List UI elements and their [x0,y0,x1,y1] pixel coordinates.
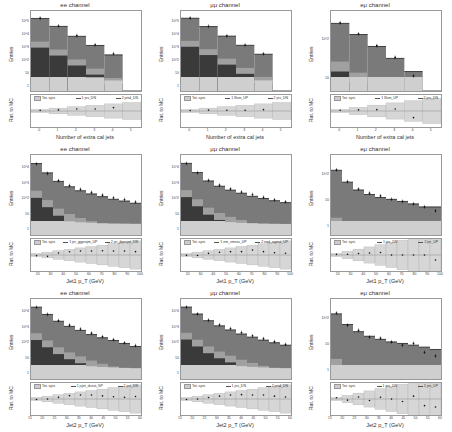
x-tick-label: 50 [114,416,118,420]
legend-label: 2 jetid_DN [122,96,138,100]
x-axis-label: Jet1 p_T (GeV) [180,278,290,284]
x-tick-label: 100 [137,272,143,276]
y-axis-ticks: 11010^2 [319,154,329,234]
ratio-y-axis-label: Rat. to MC [308,386,314,410]
x-tick-label: 50 [414,416,418,420]
ratio-panel: Tot. syst.1 jsjet_dusst_SP2 jes_DN [30,382,142,416]
x-tick-label: 55 [276,416,280,420]
y-tick-label: 10^2 [172,340,179,344]
syst-band-swatch-icon [34,384,41,389]
y-tick-label: 10^3 [22,45,29,49]
x-tick-label: 90 [275,272,279,276]
x-tick-label: 60 [138,416,142,420]
legend-entry: 1 lllum_UP [225,96,248,101]
line-swatch-icon [63,242,68,243]
x-tick-label: 40 [361,272,365,276]
ratio-panel: Tot. syst.1 jer_ggprojm_UP2 jer_jbprojm_… [30,238,142,272]
legend-entry: Tot. syst. [184,96,206,101]
legend-entry: 1 jes_DN [76,96,96,101]
panel-title: eμ channel [300,290,450,296]
x-tick-label: 40 [211,272,215,276]
legend-label: 1 jes_DN [383,384,397,388]
x-tick-label: 1 [357,128,359,132]
y-axis-ticks: 1010^2 [319,10,329,90]
legend-entry: 1 em_smear_UP [214,240,246,245]
x-axis-label: Jet2 p_T (GeV) [330,422,440,428]
chart-panel-row1-col3: eμ channel1010^2EntriesTot. syst.1 lllum… [300,0,450,144]
ratio-legend: Tot. syst.1 lllum_UP2 jes_DN [334,96,438,101]
x-tick-label: 70 [400,272,404,276]
y-tick-label: 1 [177,84,179,88]
x-tick-label: 80 [112,272,116,276]
x-axis-label: Jet1 p_T (GeV) [330,278,440,284]
y-tick-label: 10^3 [22,181,29,185]
legend-entry: Tot. syst. [34,96,56,101]
ratio-legend: Tot. syst.1 jer_ggprojm_UP2 jer_jbprojm_… [34,240,138,245]
legend-label: 2 jer_UP [424,240,438,244]
y-tick-label: 10^3 [172,325,179,329]
line-swatch-icon [105,242,110,243]
legend-label: Tot. syst. [192,240,206,244]
syst-band-swatch-icon [184,384,191,389]
legend-entry: Tot. syst. [34,384,56,389]
y-axis-label: Entries [158,190,164,206]
chart-panel-row2-col1: ee channel11010^210^310^4EntriesTot. sys… [0,144,150,288]
x-tick-label: 70 [100,272,104,276]
x-tick-label: 15 [28,416,32,420]
x-tick-label: 90 [125,272,129,276]
x-tick-label: 0 [338,128,340,132]
x-tick-label: 55 [426,416,430,420]
y-axis-label: Entries [8,190,14,206]
y-tick-label: 10^4 [22,165,29,169]
ratio-y-axis-label: Rat. to MC [158,98,164,122]
y-tick-label: 10 [25,71,29,75]
chart-panel-row3-col2: μμ channel11010^210^310^4EntriesTot. sys… [150,288,300,432]
y-tick-label: 10^4 [172,32,179,36]
syst-band-swatch-icon [184,240,191,245]
ratio-y-axis-label: Rat. to MC [308,242,314,266]
line-swatch-icon [76,98,81,99]
legend-entry: 1 jes_DN [377,384,397,389]
x-tick-label: 80 [412,272,416,276]
x-tick-label: 70 [250,272,254,276]
legend-entry: 1 jes_DN [226,384,246,389]
x-axis-label: Number of extra cal jets [180,134,290,140]
x-tick-label: 50 [74,272,78,276]
chart-panel-row1-col1: ee channel11010^210^310^410^5EntriesTot.… [0,0,150,144]
legend-label: Tot. syst. [42,240,56,244]
legend-label: 1 jes_DN [232,384,246,388]
line-swatch-icon [418,242,423,243]
ratio-panel: Tot. syst.1 jes_DN2 jes_UP [330,382,442,416]
legend-entry: Tot. syst. [334,384,356,389]
chart-panel-row3-col1: ee channel11010^210^310^4EntriesTot. sys… [0,288,150,432]
y-tick-label: 10^2 [322,172,329,176]
line-swatch-icon [418,386,423,387]
y-tick-label: 10^3 [172,45,179,49]
legend-label: 2 jer_jbprojm_DN [111,240,138,244]
panel-title: ee channel [0,146,150,152]
ratio-panel: Tot. syst.1 lllum_UP2 jes_DN [330,94,442,128]
legend-entry: Tot. syst. [334,96,356,101]
panel-title: μμ channel [150,146,300,152]
legend-label: Tot. syst. [42,384,56,388]
x-tick-label: 30 [49,272,53,276]
x-tick-label: 0 [38,128,40,132]
y-tick-label: 10^2 [22,340,29,344]
ratio-panel: Tot. syst.1 em_smear_UP2 eqd_sigma_UP [180,238,292,272]
legend-entry: 2 jer_UP [418,240,438,245]
y-tick-label: 10 [175,71,179,75]
y-axis-label: Entries [8,334,14,350]
x-tick-label: 20 [190,416,194,420]
y-tick-label: 1 [27,371,29,375]
y-tick-label: 10 [175,356,179,360]
x-tick-label: 30 [349,272,353,276]
x-tick-label: 4 [262,128,264,132]
y-tick-label: 1 [177,227,179,231]
line-swatch-icon [418,98,423,99]
syst-band-swatch-icon [334,240,341,245]
x-tick-label: 45 [101,416,105,420]
main-histogram [330,10,442,92]
x-tick-label: 5 [430,128,432,132]
main-histogram [30,154,142,236]
x-tick-label: 20 [186,272,190,276]
